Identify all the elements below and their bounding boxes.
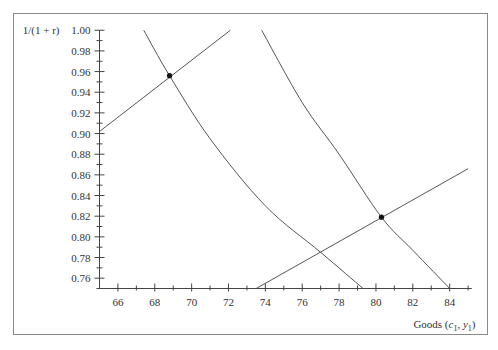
- x-tick-label: 76: [297, 296, 309, 308]
- y-tick-label: 0.84: [71, 190, 91, 202]
- y-tick-label: 0.80: [71, 231, 91, 243]
- y-tick-label: 0.94: [71, 86, 91, 98]
- chart: 1.000.980.960.940.920.900.880.860.840.82…: [0, 0, 498, 350]
- x-tick-label: 80: [370, 296, 382, 308]
- supply-2-curve: [256, 169, 468, 289]
- x-tick-label: 72: [223, 296, 234, 308]
- y-tick-label: 0.96: [71, 66, 91, 78]
- y-tick-label: 0.78: [71, 252, 91, 264]
- y-axis-title: 1/(1 + r): [23, 24, 60, 37]
- x-tick-label: 70: [186, 296, 198, 308]
- y-tick-label: 0.92: [71, 107, 90, 119]
- x-tick-label: 82: [407, 296, 418, 308]
- x-tick-label: 68: [149, 296, 161, 308]
- y-tick-label: 0.82: [71, 210, 90, 222]
- equilibrium-1-point: [167, 73, 172, 78]
- x-tick-label: 84: [444, 296, 456, 308]
- y-tick-label: 0.86: [71, 169, 91, 181]
- demand-1-curve: [144, 30, 363, 288]
- y-tick-label: 0.76: [71, 272, 91, 284]
- y-tick-label: 1.00: [71, 24, 91, 36]
- supply-1-curve: [100, 30, 231, 131]
- y-tick-label: 0.90: [71, 128, 91, 140]
- demand-2-curve: [262, 30, 450, 288]
- x-axis-title: Goods (c1, y1): [413, 318, 475, 333]
- y-tick-label: 0.88: [71, 148, 91, 160]
- equilibrium-2-point: [379, 215, 384, 220]
- y-tick-label: 0.98: [71, 45, 91, 57]
- x-tick-label: 66: [112, 296, 124, 308]
- x-tick-label: 78: [334, 296, 346, 308]
- x-tick-label: 74: [260, 296, 272, 308]
